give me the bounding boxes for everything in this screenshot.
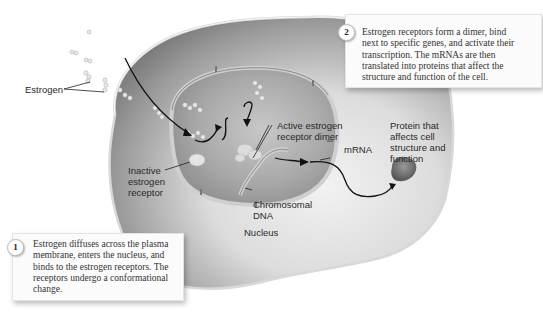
callout-line: translated into proteins that affect the [362, 61, 514, 72]
label-inactive-line2: estrogen [128, 176, 165, 187]
step-number-badge: 2 [338, 24, 355, 41]
callout-step-1: 1 Estrogen diffuses across the plasma me… [12, 233, 184, 301]
inactive-receptor-shape [189, 154, 205, 166]
estrogen-signaling-diagram: Estrogen Active estrogen receptor dimer … [0, 0, 543, 315]
label-protein-line1: Protein that [390, 120, 445, 131]
callout-step-2-text: Estrogen receptors form a dimer, bind ne… [362, 27, 514, 83]
label-inactive-receptor: Inactive estrogen receptor [128, 165, 165, 198]
callout-line: Estrogen receptors form a dimer, bind [362, 27, 514, 38]
label-protein-line4: function [390, 153, 445, 164]
label-active-dimer-line1: Active estrogen [277, 120, 342, 131]
label-inactive-line1: Inactive [128, 165, 165, 176]
label-protein-line2: affects cell [390, 131, 445, 142]
callout-line: transcription. The mRNAs are then [362, 50, 514, 61]
label-dna-line2: DNA [253, 210, 312, 221]
callout-line: Estrogen diffuses across the plasma [33, 239, 168, 250]
step-number-badge: 1 [7, 239, 24, 256]
callout-step-1-text: Estrogen diffuses across the plasma memb… [33, 239, 168, 295]
label-chromosomal-dna: Chromosomal DNA [253, 199, 312, 221]
callout-line: structure and function of the cell. [362, 72, 514, 83]
label-mrna: mRNA [344, 144, 372, 155]
callout-step-2: 2 Estrogen receptors form a dimer, bind … [345, 14, 542, 88]
label-nucleus: Nucleus [244, 227, 278, 238]
label-active-dimer-line2: receptor dimer [277, 131, 342, 142]
callout-line: receptors undergo a conformational [33, 273, 168, 284]
label-dna-line1: Chromosomal [253, 199, 312, 210]
callout-line: next to specific genes, and activate the… [362, 38, 514, 49]
label-inactive-line3: receptor [128, 187, 165, 198]
callout-line: membrane, enters the nucleus, and [33, 250, 168, 261]
label-estrogen: Estrogen [25, 84, 63, 95]
callout-line: binds to the estrogen receptors. The [33, 262, 168, 273]
label-protein: Protein that affects cell structure and … [390, 120, 445, 164]
label-protein-line3: structure and [390, 142, 445, 153]
label-active-dimer: Active estrogen receptor dimer [277, 120, 342, 142]
callout-line: change. [33, 284, 168, 295]
